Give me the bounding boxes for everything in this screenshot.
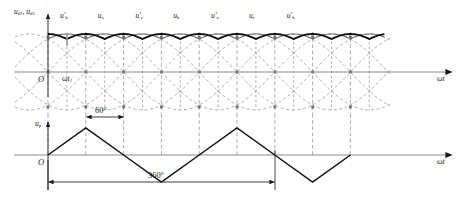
- crossing-node: [273, 36, 276, 39]
- crossing-node: [273, 106, 276, 109]
- phase-label-subscript: c: [141, 15, 143, 20]
- phase-label-subscript: c: [253, 15, 255, 20]
- crossing-node: [236, 106, 239, 109]
- gridlines-lower: [48, 114, 350, 155]
- waveform-figure: [0, 0, 467, 203]
- phase-label: uc: [249, 12, 255, 21]
- dimension-360: [48, 150, 275, 190]
- phase-label: u′c: [136, 12, 144, 21]
- crossing-node: [198, 106, 201, 109]
- phase-label-subscript: b: [292, 15, 294, 20]
- phase-label: ua: [98, 12, 104, 21]
- upper-plot: [14, 14, 452, 114]
- phase-label-subscript: a: [217, 15, 219, 20]
- crossing-node: [160, 36, 163, 39]
- crossing-node: [84, 106, 87, 109]
- lower-x-axis-label: ωt: [437, 158, 445, 166]
- crossing-node: [160, 106, 163, 109]
- phase-label-subscript: b: [177, 15, 179, 20]
- crossing-node: [47, 106, 50, 109]
- phase-label-subscript: b: [65, 15, 67, 20]
- crossing-node: [198, 36, 201, 39]
- phase-label: u′b: [60, 12, 68, 21]
- dimension-360-label: 360°: [148, 172, 164, 180]
- dimension-60-label: 60°: [95, 107, 107, 115]
- crossing-node: [122, 106, 125, 109]
- crossing-node: [311, 36, 314, 39]
- crossing-node: [84, 36, 87, 39]
- crossing-node: [349, 106, 352, 109]
- lower-plot: [14, 114, 452, 190]
- ud1-text: ud1: [14, 7, 23, 16]
- phase-label: ub: [173, 12, 179, 21]
- lower-y-axis-label: up: [35, 120, 41, 129]
- crossing-node: [311, 106, 314, 109]
- phase-label: u′b: [287, 12, 295, 21]
- gridlines-upper: [48, 32, 369, 114]
- upper-origin-label: O: [38, 75, 44, 84]
- crossing-node: [236, 36, 239, 39]
- phase-label-subscript: a: [101, 15, 103, 20]
- crossing-node: [349, 36, 352, 39]
- wt1-label: ωt1: [62, 75, 72, 84]
- lower-origin-label: O: [38, 158, 44, 167]
- phase-label: u′a: [211, 12, 219, 21]
- crossing-node: [122, 36, 125, 39]
- ud2-text: ud2: [26, 7, 35, 16]
- upper-y-axis-label: ud1, ud2: [14, 8, 35, 17]
- upper-x-axis-label: ωt: [437, 75, 445, 83]
